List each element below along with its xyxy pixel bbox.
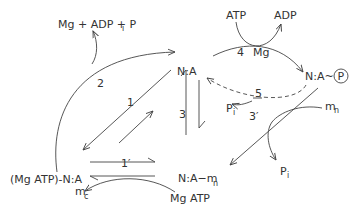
- svg-text:N:A~: N:A~: [305, 70, 334, 83]
- node-na: N:A: [177, 65, 197, 78]
- svg-text:P: P: [338, 70, 345, 83]
- mc-output: m c: [75, 185, 88, 201]
- step-1prime-label: 1′: [121, 157, 131, 170]
- adp-label: ADP: [274, 9, 297, 22]
- svg-text:c: c: [84, 192, 88, 201]
- arrow-step-3prime: [230, 88, 318, 165]
- products-step-2: Mg + ADP + P i: [58, 18, 137, 33]
- arrow-step-3prime-mn-pi: [268, 107, 322, 160]
- svg-text:P: P: [226, 102, 233, 115]
- step-4-label: 4: [237, 46, 244, 59]
- node-na-phospho: N:A~ P: [305, 69, 348, 83]
- arrow-step-2: [56, 52, 175, 172]
- svg-text:N:A−m: N:A−m: [178, 172, 217, 185]
- mgatp-input: Mg ATP: [170, 192, 210, 205]
- arrow-atp-adp: [236, 22, 281, 46]
- pi-step-3prime: P i: [280, 165, 289, 180]
- svg-text:n: n: [334, 106, 339, 115]
- svg-text:i: i: [122, 24, 124, 33]
- arrow-step-5-pi: [232, 101, 252, 105]
- svg-text:n: n: [213, 179, 218, 188]
- step-3prime-label: 3′: [249, 110, 259, 123]
- node-na-mn: N:A−m n: [178, 172, 218, 188]
- svg-text:Mg + ADP + P: Mg + ADP + P: [58, 18, 137, 31]
- reaction-diagram: N:A N:A~ P (Mg ATP)-N:A N:A−m n Mg + ADP…: [0, 0, 357, 211]
- mn-input: m n: [325, 100, 339, 115]
- node-mgatp-na: (Mg ATP)-N:A: [10, 173, 82, 186]
- step-3-label: 3: [179, 108, 186, 121]
- svg-text:i: i: [233, 108, 235, 117]
- arrow-mgatp-mc: [85, 179, 175, 192]
- svg-text:P: P: [280, 165, 287, 178]
- arrow-step-2-products: [92, 31, 97, 64]
- arrow-step-1-reverse: [119, 111, 153, 143]
- step-2-label: 2: [97, 77, 104, 90]
- svg-text:i: i: [287, 171, 289, 180]
- atp-label: ATP: [226, 9, 246, 22]
